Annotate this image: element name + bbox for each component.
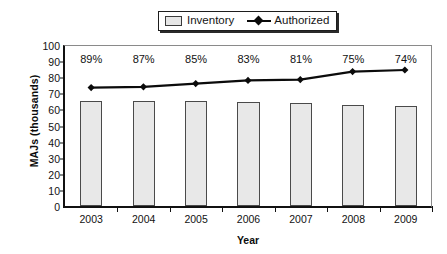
y-axis-tick-label: 100: [42, 41, 60, 52]
authorized-data-point-marker: [401, 66, 408, 73]
x-axis-tick-mark: [275, 206, 276, 212]
legend-label-inventory: Inventory: [187, 15, 234, 27]
bar-inventory: [80, 101, 102, 206]
bar-inventory: [133, 101, 155, 206]
y-axis-tick-mark: [60, 78, 65, 79]
authorized-line-path: [91, 70, 405, 88]
y-axis-tick-label: 70: [48, 89, 60, 100]
authorized-data-point-marker: [140, 83, 147, 90]
x-axis-tick-label: 2004: [132, 214, 155, 225]
x-axis-tick-mark: [380, 206, 381, 212]
bar-inventory: [290, 103, 312, 206]
x-axis-tick-label: 2007: [289, 214, 312, 225]
y-axis-tick-mark: [60, 126, 65, 127]
y-axis-tick-label: 40: [48, 137, 60, 148]
percent-annotation-label: 87%: [133, 54, 155, 65]
x-axis-tick-label: 2003: [80, 214, 103, 225]
y-axis-tick-label: 90: [48, 57, 60, 68]
plot-inner: 0102030405060708090100200320042005200620…: [65, 46, 431, 206]
legend-label-authorized: Authorized: [274, 15, 329, 27]
bar-inventory: [185, 101, 207, 206]
y-axis-tick-label: 60: [48, 105, 60, 116]
y-axis-tick-mark: [60, 62, 65, 63]
y-axis-tick-mark: [60, 174, 65, 175]
y-axis-tick-label: 50: [48, 121, 60, 132]
percent-annotation-label: 83%: [237, 54, 259, 65]
x-axis-tick-mark: [170, 206, 171, 212]
plot-area: 0102030405060708090100200320042005200620…: [63, 45, 432, 208]
y-axis-tick-mark: [60, 142, 65, 143]
percent-annotation-label: 74%: [395, 54, 417, 65]
percent-annotation-label: 85%: [185, 54, 207, 65]
y-axis-tick-mark: [60, 110, 65, 111]
x-axis-tick-mark: [432, 206, 433, 212]
chart-legend: Inventory Authorized: [158, 11, 337, 31]
authorized-data-point-marker: [349, 68, 356, 75]
line-diamond-marker-icon: [247, 16, 271, 27]
authorized-data-point-marker: [244, 77, 251, 84]
x-axis-tick-label: 2008: [342, 214, 365, 225]
chart-container: Inventory Authorized MAJs (thousands) 01…: [0, 0, 447, 254]
x-axis-tick-label: 2006: [237, 214, 260, 225]
x-axis-tick-mark: [117, 206, 118, 212]
y-axis-tick-label: 30: [48, 153, 60, 164]
x-axis-tick-mark: [327, 206, 328, 212]
percent-annotation-label: 81%: [290, 54, 312, 65]
legend-item-authorized: Authorized: [247, 15, 329, 27]
y-axis-tick-label: 0: [54, 202, 60, 213]
x-axis-tick-label: 2009: [394, 214, 417, 225]
percent-annotation-label: 89%: [80, 54, 102, 65]
x-axis-title: Year: [63, 234, 433, 246]
y-axis-tick-mark: [60, 158, 65, 159]
percent-annotation-label: 75%: [342, 54, 364, 65]
y-axis-tick-label: 80: [48, 73, 60, 84]
bar-inventory: [342, 105, 364, 206]
x-axis-tick-mark: [222, 206, 223, 212]
authorized-data-point-marker: [88, 84, 95, 91]
bar-inventory: [237, 102, 259, 206]
legend-item-inventory: Inventory: [165, 15, 234, 27]
authorized-data-point-marker: [297, 76, 304, 83]
y-axis-tick-label: 20: [48, 170, 60, 181]
x-axis-tick-label: 2005: [184, 214, 207, 225]
bar-swatch-icon: [165, 16, 182, 26]
y-axis-tick-mark: [60, 94, 65, 95]
y-axis-tick-mark: [60, 190, 65, 191]
y-axis-tick-label: 10: [48, 186, 60, 197]
authorized-data-point-marker: [192, 80, 199, 87]
y-axis-title: MAJs (thousands): [28, 41, 40, 201]
bar-inventory: [395, 106, 417, 206]
